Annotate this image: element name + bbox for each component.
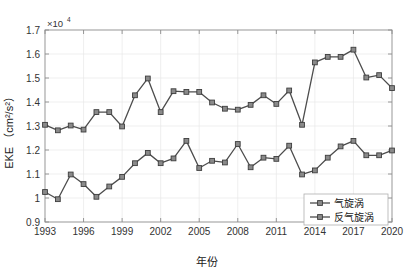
data-point-marker [351,47,356,52]
x-tick-label: 1999 [111,226,134,237]
data-point-marker [171,156,176,161]
data-point-marker [338,54,343,59]
data-point-marker [94,194,99,199]
data-point-marker [107,110,112,115]
data-point-marker [55,128,60,133]
data-point-marker [248,165,253,170]
data-point-marker [364,75,369,80]
data-point-marker [248,102,253,107]
y-exponent-power: 4 [67,16,71,23]
data-point-marker [377,153,382,158]
y-exponent: ×10 4 [47,16,71,29]
data-point-marker [235,142,240,147]
data-point-marker [133,161,138,166]
data-point-marker [287,143,292,148]
data-point-marker [235,107,240,112]
data-point-marker [377,73,382,78]
legend-marker-swatch [318,201,323,206]
data-point-marker [261,93,266,98]
x-tick-label: 1996 [72,226,95,237]
data-point-marker [390,86,395,91]
chart-figure: 1993199619992002200520082011201420172020… [0,0,404,274]
x-tick-label: 2005 [188,226,211,237]
data-point-marker [300,122,305,127]
data-point-marker [171,89,176,94]
chart-canvas: 1993199619992002200520082011201420172020… [0,0,404,274]
x-tick-label: 2020 [381,226,404,237]
y-tick-label: 1.1 [26,169,40,180]
y-tick-label: 0.9 [26,217,40,228]
series-line-path [45,50,392,131]
data-point-marker [158,110,163,115]
x-tick-label: 2002 [150,226,173,237]
data-point-marker [364,153,369,158]
data-point-marker [223,160,228,165]
series-2 [43,47,395,132]
x-axis-title-text: 年份 [196,255,218,268]
data-point-marker [300,172,305,177]
data-point-marker [43,122,48,127]
legend-item-label: 气旋涡 [334,197,364,209]
data-point-marker [287,88,292,93]
x-tick-label: 1993 [34,226,57,237]
series-1 [43,138,395,201]
data-point-marker [274,156,279,161]
data-series [43,47,395,201]
data-point-marker [338,144,343,149]
data-point-marker [197,90,202,95]
data-point-marker [68,123,73,128]
data-point-marker [120,174,125,179]
data-point-marker [261,155,266,160]
data-point-marker [274,102,279,107]
data-point-marker [81,127,86,132]
data-point-marker [120,124,125,129]
y-tick-label: 1.3 [26,121,40,132]
data-point-marker [210,158,215,163]
data-point-marker [145,150,150,155]
data-point-marker [133,93,138,98]
y-exponent-base: ×10 [47,18,63,29]
series-line-path [45,141,392,199]
y-tick-label: 1.5 [26,73,40,84]
data-point-marker [325,54,330,59]
data-point-marker [158,161,163,166]
data-point-marker [94,110,99,115]
data-point-marker [390,148,395,153]
legend-marker-swatch [318,215,323,220]
data-point-marker [43,190,48,195]
x-tick-labels: 1993199619992002200520082011201420172020 [34,226,404,237]
x-tick-label: 2011 [266,226,288,237]
y-tick-label: 1.4 [26,97,40,108]
data-point-marker [312,168,317,173]
x-tick-label: 2008 [227,226,250,237]
data-point-marker [223,106,228,111]
chart-legend[interactable]: 气旋涡反气旋涡 [304,194,388,225]
x-tick-label: 2014 [304,226,327,237]
x-tick-label: 2017 [342,226,365,237]
data-point-marker [312,60,317,65]
data-point-marker [107,184,112,189]
data-point-marker [351,138,356,143]
data-point-marker [325,155,330,160]
data-point-marker [210,100,215,105]
legend-item-label: 反气旋涡 [334,211,374,223]
y-axis-title: EKE （cm²/s²） [3,91,15,169]
y-axis-title-text: EKE （cm²/s²） [3,91,15,169]
data-point-marker [184,138,189,143]
data-point-marker [55,197,60,202]
y-tick-labels: 0.911.11.21.31.41.51.61.7 [26,25,40,228]
data-point-marker [68,172,73,177]
data-point-marker [145,76,150,81]
x-axis-title: 年份 [196,255,218,268]
y-tick-label: 1.6 [26,49,40,60]
data-point-marker [197,166,202,171]
data-point-marker [184,90,189,95]
data-point-marker [81,182,86,187]
y-tick-label: 1.2 [26,145,40,156]
y-tick-label: 1.7 [26,25,40,36]
y-tick-label: 1 [34,193,40,204]
